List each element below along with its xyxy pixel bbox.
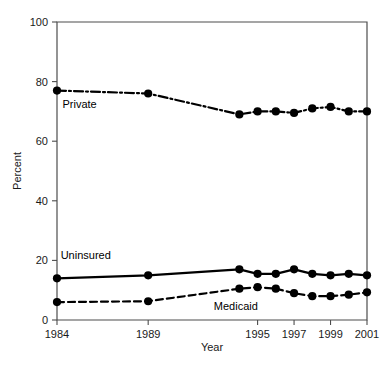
data-point-medicaid-1996	[272, 285, 280, 293]
data-point-private-1995	[253, 107, 261, 115]
series-label-private: Private	[62, 98, 96, 110]
y-axis-tick-label: 60	[36, 135, 48, 147]
line-chart-figure: 020406080100 198419891995199719992001 Pe…	[0, 0, 382, 367]
data-point-uninsured-1998	[308, 270, 316, 278]
x-axis-tick-label: 1999	[318, 328, 342, 340]
data-point-medicaid-1998	[308, 292, 316, 300]
data-point-private-1994	[235, 110, 243, 118]
data-point-medicaid-1999	[326, 292, 334, 300]
series-label-uninsured: Uninsured	[61, 249, 111, 261]
data-point-medicaid-1989	[144, 297, 152, 305]
data-point-uninsured-2001	[363, 271, 371, 279]
data-point-private-1989	[144, 89, 152, 97]
x-axis-tick-label: 1989	[136, 328, 160, 340]
data-point-uninsured-1984	[53, 274, 61, 282]
data-point-medicaid-1997	[290, 289, 298, 297]
y-axis-tick-label: 20	[36, 254, 48, 266]
y-axis-tick-label: 0	[42, 314, 48, 326]
y-axis-title: Percent	[11, 152, 23, 190]
data-point-private-1984	[53, 86, 61, 94]
y-axis-tick-label: 100	[30, 16, 48, 28]
data-point-medicaid-1984	[53, 298, 61, 306]
y-axis-tick-label: 40	[36, 195, 48, 207]
data-point-private-1996	[272, 107, 280, 115]
data-point-uninsured-1995	[253, 270, 261, 278]
data-point-uninsured-1989	[144, 271, 152, 279]
x-axis-title: Year	[201, 341, 224, 353]
data-point-medicaid-2001	[363, 288, 371, 296]
data-point-medicaid-1994	[235, 285, 243, 293]
x-axis-tick-label: 1997	[282, 328, 306, 340]
y-axis-tick-label: 80	[36, 76, 48, 88]
data-point-medicaid-2000	[345, 291, 353, 299]
data-point-private-2001	[363, 107, 371, 115]
data-point-uninsured-1997	[290, 265, 298, 273]
x-axis-tick-label: 2001	[355, 328, 379, 340]
data-point-private-1997	[290, 109, 298, 117]
data-point-uninsured-1999	[326, 271, 334, 279]
data-point-uninsured-1996	[272, 270, 280, 278]
series-label-medicaid: Medicaid	[214, 300, 258, 312]
data-point-private-1999	[326, 103, 334, 111]
data-point-private-2000	[345, 107, 353, 115]
data-point-uninsured-1994	[235, 265, 243, 273]
x-axis-tick-label: 1995	[245, 328, 269, 340]
data-point-uninsured-2000	[345, 270, 353, 278]
chart-canvas: 020406080100 198419891995199719992001 Pe…	[0, 0, 382, 367]
data-point-private-1998	[308, 104, 316, 112]
data-point-medicaid-1995	[253, 283, 261, 291]
x-axis-tick-label: 1984	[45, 328, 69, 340]
